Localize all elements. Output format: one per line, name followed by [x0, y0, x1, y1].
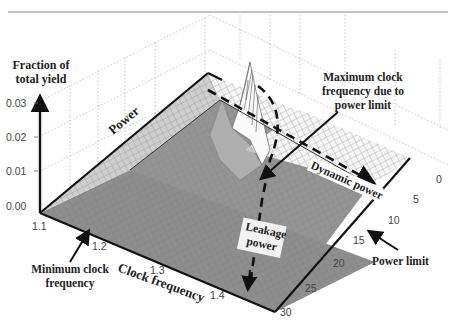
- power-limit-arrow: [370, 232, 398, 250]
- z-axis-title-line1: Fraction of: [6, 58, 76, 72]
- power-limit-annotation: Power limit: [372, 254, 429, 268]
- z-tick-0.00: 0.00: [6, 200, 27, 212]
- x-tick-1.4: 1.4: [210, 289, 225, 301]
- max-clock-annotation: Maximum clock frequency due to power lim…: [308, 70, 418, 112]
- min-clock-annotation: Minimum clock frequency: [20, 262, 120, 290]
- max-clock-line2: frequency due to: [308, 84, 418, 98]
- z-ticks: 0.03 0.02 0.01 0.00: [6, 97, 38, 212]
- y-tick-20: 20: [333, 257, 345, 269]
- min-clock-arrow: [70, 232, 88, 262]
- z-tick-0.01: 0.01: [6, 165, 27, 177]
- max-clock-line3: power limit: [308, 98, 418, 112]
- y-tick-30: 30: [280, 306, 292, 318]
- z-tick-0.02: 0.02: [6, 131, 27, 143]
- z-axis-title: Fraction of total yield: [6, 58, 76, 86]
- y-tick-25: 25: [305, 282, 317, 294]
- x-tick-1.2: 1.2: [92, 240, 107, 252]
- min-clock-line1: Minimum clock: [20, 262, 120, 276]
- z-axis-title-line2: total yield: [6, 72, 76, 86]
- power-limit-label: Power limit: [372, 254, 429, 268]
- y-tick-0: 0: [436, 173, 442, 185]
- max-clock-line1: Maximum clock: [308, 70, 418, 84]
- y-tick-5: 5: [413, 193, 419, 205]
- z-tick-0.03: 0.03: [6, 97, 27, 109]
- min-clock-line2: frequency: [20, 276, 120, 290]
- y-tick-10: 10: [388, 214, 400, 226]
- x-tick-1.1: 1.1: [32, 220, 47, 232]
- y-tick-15: 15: [353, 234, 365, 246]
